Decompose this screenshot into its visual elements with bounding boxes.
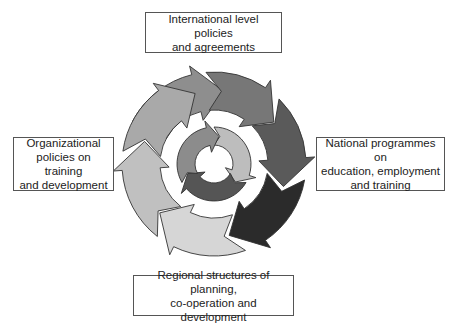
inner-ring-arrows	[177, 121, 256, 201]
inner-arrow-left-icon	[177, 121, 219, 183]
box-bottom-line-1: Regional structures of planning,	[138, 268, 289, 296]
outer-arrow-top-right-icon	[206, 72, 274, 127]
box-left-line-1: Organizational	[18, 136, 109, 150]
outer-ring-arrows	[113, 66, 315, 256]
box-top-line-2: and agreements	[150, 40, 277, 54]
organizational-policies-box: Organizational policies on training and …	[13, 137, 114, 191]
box-left-line-2: policies on training	[18, 150, 109, 178]
national-programmes-box: National programmes on education, employ…	[316, 137, 445, 191]
inner-arrow-right-icon	[214, 127, 256, 182]
box-right-line-2: education, employment	[321, 164, 440, 178]
international-policies-box: International level policies and agreeme…	[145, 12, 282, 53]
box-right-line-1: National programmes on	[321, 136, 440, 164]
box-left-line-3: and development	[18, 178, 109, 192]
box-right-line-3: and training	[321, 178, 440, 192]
regional-structures-box: Regional structures of planning, co-oper…	[133, 275, 294, 316]
box-bottom-line-2: co-operation and development	[138, 296, 289, 324]
box-top-line-1: International level policies	[150, 12, 277, 40]
